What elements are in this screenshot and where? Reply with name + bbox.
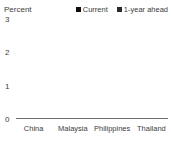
- legend-label-current: Current: [83, 5, 108, 14]
- legend: Current 1-year ahead: [76, 5, 168, 14]
- legend-swatch-current-icon: [76, 7, 81, 12]
- y-axis: 0123: [5, 19, 15, 119]
- y-tick-2: 2: [5, 48, 9, 57]
- bar-chart-inflation-forecasts: Percent Current 1-year ahead 0123 ChinaM…: [0, 0, 171, 141]
- y-tick-3: 3: [5, 15, 9, 24]
- legend-label-1-year-ahead: 1-year ahead: [124, 5, 168, 14]
- x-label-philippines: Philippines: [93, 124, 132, 133]
- plot-area: [16, 19, 168, 119]
- y-tick-1: 1: [5, 82, 9, 91]
- x-label-china: China: [14, 124, 53, 133]
- legend-item-current: Current: [76, 5, 108, 14]
- legend-item-1-year-ahead: 1-year ahead: [117, 5, 168, 14]
- legend-swatch-1-year-ahead-icon: [117, 7, 122, 12]
- x-label-malaysia: Malaysia: [53, 124, 92, 133]
- y-tick-0: 0: [5, 115, 9, 124]
- y-axis-label: Percent: [4, 5, 32, 14]
- x-label-thailand: Thailand: [132, 124, 171, 133]
- x-axis: ChinaMalaysiaPhilippinesThailand: [14, 124, 171, 133]
